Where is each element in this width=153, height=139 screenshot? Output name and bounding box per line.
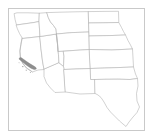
highlight-island-speck-3 <box>19 62 20 63</box>
state-oklahoma <box>91 67 138 80</box>
state-texas <box>95 79 140 127</box>
map-thumbnail: Western United States locator map Southe… <box>0 0 153 139</box>
highlight-island-speck-1 <box>22 66 24 67</box>
state-south-dakota <box>89 23 126 37</box>
state-kansas <box>90 49 134 69</box>
state-north-dakota <box>89 11 119 23</box>
state-nebraska <box>89 35 132 50</box>
highlight-island-speck-2 <box>26 70 27 71</box>
state-wyoming <box>57 32 90 52</box>
highlight-island-speck-4 <box>30 72 31 73</box>
state-colorado <box>64 50 91 70</box>
us-states-map <box>0 0 153 139</box>
